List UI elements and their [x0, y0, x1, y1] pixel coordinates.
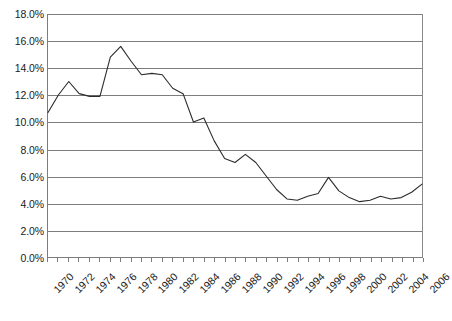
x-tick — [371, 258, 372, 262]
x-tick — [214, 258, 215, 262]
x-tick — [360, 258, 361, 262]
x-tick-label: 2004 — [407, 271, 431, 295]
x-tick-label: 1982 — [177, 271, 201, 295]
x-tick-label: 2000 — [365, 271, 389, 295]
x-tick — [256, 258, 257, 262]
x-tick — [193, 258, 194, 262]
y-tick-label: 4.0% — [0, 199, 44, 209]
x-tick — [381, 258, 382, 262]
x-tick-label: 1994 — [302, 271, 326, 295]
x-tick — [235, 258, 236, 262]
x-tick-label: 1976 — [114, 271, 138, 295]
x-tick-label: 1988 — [240, 271, 264, 295]
x-tick — [319, 258, 320, 262]
x-tick-label: 1990 — [260, 271, 284, 295]
x-tick — [89, 258, 90, 262]
y-tick-label: 6.0% — [0, 172, 44, 182]
x-tick-label: 1978 — [135, 271, 159, 295]
y-tick-label: 12.0% — [0, 90, 44, 100]
x-tick-label: 1998 — [344, 271, 368, 295]
y-tick-label: 0.0% — [0, 253, 44, 263]
x-tick — [266, 258, 267, 262]
y-tick-label: 16.0% — [0, 36, 44, 46]
x-tick — [225, 258, 226, 262]
x-tick — [99, 258, 100, 262]
x-tick — [183, 258, 184, 262]
x-tick — [392, 258, 393, 262]
x-tick — [151, 258, 152, 262]
x-tick-label: 2006 — [428, 271, 452, 295]
x-tick-label: 2002 — [386, 271, 410, 295]
x-tick-label: 1980 — [156, 271, 180, 295]
x-tick — [204, 258, 205, 262]
y-tick-label: 2.0% — [0, 226, 44, 236]
x-tick — [423, 258, 424, 262]
x-tick — [141, 258, 142, 262]
x-tick — [162, 258, 163, 262]
plot-area — [47, 14, 423, 258]
x-tick — [413, 258, 414, 262]
x-tick — [298, 258, 299, 262]
y-axis: 18.0%16.0%14.0%12.0%10.0%8.0%6.0%4.0%2.0… — [0, 0, 44, 321]
x-tick — [350, 258, 351, 262]
x-tick — [287, 258, 288, 262]
x-tick-label: 1970 — [52, 271, 76, 295]
x-tick — [172, 258, 173, 262]
x-tick — [277, 258, 278, 262]
x-tick — [68, 258, 69, 262]
y-tick-label: 14.0% — [0, 63, 44, 73]
x-tick-label: 1996 — [323, 271, 347, 295]
x-tick-label: 1974 — [93, 271, 117, 295]
x-tick-label: 1984 — [198, 271, 222, 295]
series-line — [48, 14, 422, 257]
x-tick-label: 1986 — [219, 271, 243, 295]
x-tick — [47, 258, 48, 262]
x-tick — [339, 258, 340, 262]
x-tick — [245, 258, 246, 262]
series-polyline — [48, 46, 422, 201]
x-tick — [57, 258, 58, 262]
x-tick — [308, 258, 309, 262]
x-tick — [120, 258, 121, 262]
x-tick — [78, 258, 79, 262]
x-tick-label: 1992 — [281, 271, 305, 295]
x-tick — [402, 258, 403, 262]
x-tick-label: 1972 — [72, 271, 96, 295]
x-tick — [329, 258, 330, 262]
x-tick — [110, 258, 111, 262]
y-tick-label: 18.0% — [0, 9, 44, 19]
y-tick-label: 8.0% — [0, 145, 44, 155]
x-tick — [131, 258, 132, 262]
x-axis: 1970197219741976197819801982198419861988… — [47, 263, 437, 321]
y-tick-label: 10.0% — [0, 117, 44, 127]
